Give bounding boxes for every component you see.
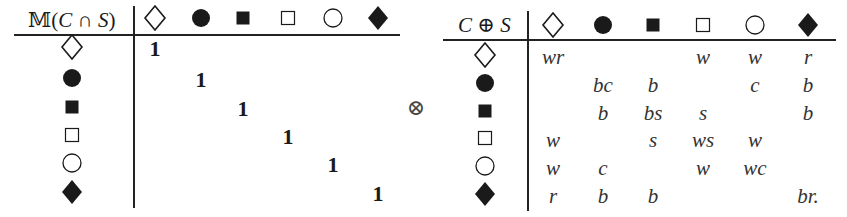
matrix-cell: b — [803, 75, 814, 96]
matrix-cell: b — [598, 186, 609, 207]
filled-square-icon — [472, 98, 498, 128]
matrix-cell: wc — [743, 158, 766, 179]
matrix-cell: 1 — [150, 38, 161, 60]
matrix-cell: w — [696, 158, 710, 179]
matrix-cell: b — [648, 186, 659, 207]
matrix-cell: c — [750, 75, 759, 96]
open-circle-icon — [742, 12, 768, 42]
matrix-cell: w — [748, 47, 762, 68]
matrix-cell: b — [803, 103, 814, 124]
open-square-icon — [690, 12, 716, 42]
open-square-icon — [59, 122, 85, 152]
filled-circle-icon — [590, 12, 616, 42]
right-column-rule — [527, 11, 529, 211]
matrix-cell: 1 — [283, 126, 294, 148]
open-circle-icon — [320, 5, 346, 35]
filled-square-icon — [230, 5, 256, 35]
direct-sum-operator: ⊕ — [472, 13, 500, 37]
matrix-cell: bs — [644, 103, 663, 124]
open-square-icon — [472, 125, 498, 155]
open-diamond-icon — [142, 5, 168, 35]
matrix-cell: c — [598, 158, 607, 179]
set-s: S — [500, 13, 511, 37]
open-diamond-icon — [472, 42, 498, 72]
matrix-cell: bc — [593, 75, 613, 96]
matrix-cell: 1 — [373, 183, 384, 205]
double-struck-m: 𝕄( — [28, 8, 58, 32]
close-paren: ) — [108, 8, 115, 32]
filled-square-icon — [640, 12, 666, 42]
open-square-icon — [275, 5, 301, 35]
filled-circle-icon — [188, 5, 214, 35]
open-circle-icon — [472, 153, 498, 183]
intersection-operator: ∩ — [72, 8, 98, 32]
matrix-cell: w — [546, 158, 560, 179]
open-diamond-icon — [59, 34, 85, 64]
matrix-cell: 1 — [196, 69, 207, 91]
matrix-cell: 1 — [328, 154, 339, 176]
matrix-cell: w — [546, 130, 560, 151]
matrix-cell: w — [748, 130, 762, 151]
open-diamond-icon — [540, 12, 566, 42]
filled-diamond-icon — [59, 179, 85, 209]
matrix-cell: b — [598, 103, 609, 124]
filled-diamond-icon — [365, 5, 391, 35]
tensor-product-operator: ⊗ — [407, 95, 425, 121]
set-c: C — [58, 8, 72, 32]
matrix-cell: r — [804, 47, 812, 68]
matrix-cell: ws — [692, 130, 714, 151]
matrix-cell: r — [549, 186, 557, 207]
matrix-cell: s — [699, 103, 707, 124]
set-c: C — [458, 13, 472, 37]
matrix-cell: b — [648, 75, 659, 96]
set-s: S — [98, 8, 109, 32]
matrix-cell: s — [649, 130, 657, 151]
matrix-cell: br. — [797, 186, 819, 207]
filled-circle-icon — [472, 70, 498, 100]
right-table-header-label: C ⊕ S — [458, 13, 511, 38]
filled-square-icon — [59, 94, 85, 124]
open-circle-icon — [59, 150, 85, 180]
filled-diamond-icon — [795, 12, 821, 42]
matrix-cell: wr — [542, 47, 564, 68]
filled-diamond-icon — [472, 181, 498, 211]
matrix-cell: w — [696, 47, 710, 68]
matrix-cell: 1 — [238, 98, 249, 120]
filled-circle-icon — [59, 65, 85, 95]
left-table-header-label: 𝕄(C ∩ S) — [28, 8, 115, 33]
left-column-rule — [133, 6, 135, 208]
